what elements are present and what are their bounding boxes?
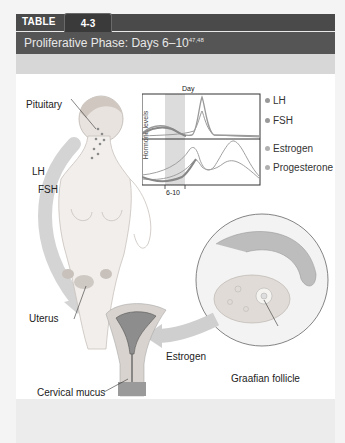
title-references: 47,48 <box>189 37 204 43</box>
label-fsh: FSH <box>38 184 58 195</box>
hormone-chart-plot: Hormone levels <box>142 85 262 195</box>
label-lh: LH <box>32 166 45 177</box>
label-estrogen-arrow: Estrogen <box>166 351 206 362</box>
label-pituitary: Pituitary <box>26 99 62 110</box>
table-label: TABLE <box>22 16 56 27</box>
svg-text:Hormone levels: Hormone levels <box>142 110 149 159</box>
label-graafian-follicle: Graafian follicle <box>231 373 300 384</box>
legend-fsh: FSH <box>265 115 293 126</box>
chart-x-tick-6-10: 6-10 <box>166 189 180 196</box>
legend-progesterone-label: Progesterone <box>273 162 333 173</box>
table-tab-bar: TABLE 4-3 <box>16 14 335 31</box>
legend-estrogen-label: Estrogen <box>273 143 313 154</box>
legend-lh: LH <box>265 95 286 106</box>
legend-estrogen: Estrogen <box>265 143 313 154</box>
page: TABLE 4-3 Proliferative Phase: Days 6–10… <box>0 0 345 443</box>
label-cervical-mucus: Cervical mucus <box>37 387 105 398</box>
table-title-bar: Proliferative Phase: Days 6–1047,48 <box>16 32 335 54</box>
legend-progesterone: Progesterone <box>265 162 333 173</box>
legend-dot-icon <box>265 98 270 103</box>
table-title: Proliferative Phase: Days 6–1047,48 <box>24 36 204 50</box>
legend-dot-icon <box>265 165 270 170</box>
illustration-figure: Pituitary LH FSH Uterus Estrogen Graafia… <box>16 74 335 399</box>
legend-lh-label: LH <box>273 95 286 106</box>
table-panel: TABLE 4-3 Proliferative Phase: Days 6–10… <box>16 14 335 443</box>
table-number: 4-3 <box>64 13 112 33</box>
legend-dot-icon <box>265 118 270 123</box>
table-lower-band <box>16 399 335 443</box>
table-title-text: Proliferative Phase: Days 6–10 <box>24 36 189 50</box>
hormone-chart: Day Hormone levels <box>142 85 332 200</box>
header-spacer-band <box>16 54 335 74</box>
legend-fsh-label: FSH <box>273 115 293 126</box>
label-uterus: Uterus <box>29 313 58 324</box>
legend-dot-icon <box>265 146 270 151</box>
